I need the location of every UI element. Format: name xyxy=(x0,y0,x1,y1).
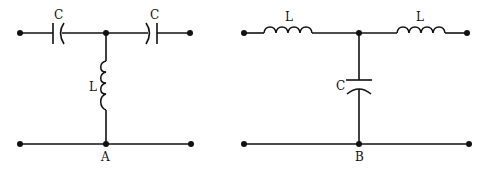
circuit-a-junction-top xyxy=(103,30,109,36)
circuit-a-inductor-shunt xyxy=(101,61,106,110)
circuit-b-inductor-right-label: L xyxy=(416,10,424,24)
circuit-b-terminal-top-right xyxy=(464,30,470,36)
circuit-b-node-label: B xyxy=(355,150,364,164)
circuit-b-inductor-right xyxy=(397,27,445,33)
circuit-a-capacitor-right-label: C xyxy=(150,8,159,22)
circuit-diagrams: C C L A L L C B xyxy=(0,0,486,169)
circuit-a-terminal-bottom-left xyxy=(17,141,23,147)
circuit-b-terminal-bottom-left xyxy=(241,141,247,147)
circuit-b-terminal-top-left xyxy=(241,30,247,36)
circuit-b-terminal-bottom-right xyxy=(466,141,472,147)
circuit-a-terminal-top-right xyxy=(187,30,193,36)
circuit-b-inductor-left xyxy=(264,27,312,33)
circuit-b-capacitor-label: C xyxy=(336,79,345,93)
circuit-a-junction-bottom xyxy=(103,141,109,147)
circuit-b-junction-top xyxy=(356,30,362,36)
circuit-a: C C L A xyxy=(17,8,194,164)
circuit-a-node-label: A xyxy=(100,150,110,164)
circuit-a-inductor-label: L xyxy=(89,80,97,94)
circuit-b: L L C B xyxy=(241,10,472,164)
circuit-a-terminal-bottom-right xyxy=(188,141,194,147)
circuit-b-inductor-left-label: L xyxy=(285,10,293,24)
circuit-a-capacitor-left-label: C xyxy=(54,8,63,22)
circuit-a-terminal-top-left xyxy=(17,30,23,36)
circuit-b-junction-bottom xyxy=(356,141,362,147)
